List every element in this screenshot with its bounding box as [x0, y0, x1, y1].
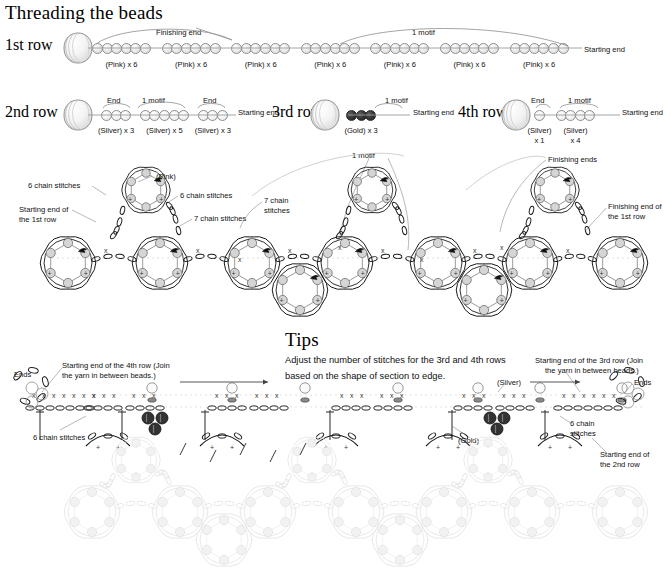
yarn-ball-icon-row1	[62, 32, 92, 64]
motif-bead	[87, 487, 96, 496]
motif-bead	[193, 497, 202, 506]
motif-flower: ++	[224, 237, 280, 290]
x-stitch-mark: x	[104, 247, 108, 254]
chain-stitch-run	[379, 501, 421, 510]
bead-silver	[120, 110, 131, 121]
motif-bead	[615, 278, 624, 287]
x-stitch-mark: x	[522, 392, 526, 399]
motif-bead	[598, 497, 607, 506]
plus-stitch-mark: +	[417, 270, 421, 277]
label-pink: (Pink)	[156, 172, 176, 182]
motif-bead	[439, 527, 448, 536]
motif-bead	[422, 497, 431, 506]
label-start-2nd-l1: Starting end of	[600, 450, 649, 460]
chain-stitch-run	[553, 254, 597, 263]
motif-bead	[81, 248, 90, 257]
motif-bead	[510, 517, 519, 526]
motif-flower	[196, 514, 252, 567]
motif-bead	[433, 238, 442, 247]
x-stitch-mark: x	[473, 247, 477, 254]
motif-bead	[132, 473, 140, 481]
motif-bead	[433, 278, 442, 287]
plus-stitch-mark: +	[546, 270, 550, 277]
partial-motif: ++	[314, 432, 358, 451]
motif-bead	[237, 545, 246, 554]
label-ends-right: Ends	[634, 378, 651, 388]
motif-flower	[240, 486, 296, 539]
motif-bead	[615, 238, 624, 247]
diagram-artwork: ++++++++++++++++++++++++xxxxxxxxxx xxxxx…	[0, 0, 671, 587]
motif-flower	[328, 486, 384, 539]
gold-bead-triad	[484, 412, 510, 435]
row2-bracket-end-right: End	[203, 96, 217, 106]
x-stitch-mark: x	[82, 392, 86, 399]
motif-bead	[263, 487, 272, 496]
motif-flower: ++	[348, 167, 397, 213]
motif-bead	[263, 527, 272, 536]
motif-bead	[497, 295, 506, 304]
motif-bead	[369, 497, 378, 506]
bead-group-caption: (Silver) x 3	[185, 126, 241, 136]
x-stitch-mark: x	[235, 392, 239, 399]
motif-bead	[158, 517, 167, 526]
plus-stitch-mark: +	[210, 444, 214, 451]
bead-pink	[558, 43, 569, 54]
plus-stitch-mark: +	[436, 444, 440, 451]
label-finishing-ends: Finishing ends	[548, 155, 597, 165]
plus-stitch-mark: +	[84, 270, 88, 277]
tips-title: Tips	[285, 329, 319, 351]
motif-bead	[413, 525, 422, 534]
x-stitch-mark: x	[380, 392, 384, 399]
label-starting-end-1st-row-l2: the 1st row	[19, 215, 56, 225]
plus-stitch-mark: +	[279, 297, 283, 304]
chain-stitch-run	[451, 473, 468, 489]
motif-flower: ++	[317, 237, 373, 290]
chain-stitch-run	[275, 473, 292, 489]
motif-bead	[551, 203, 559, 211]
plus-stitch-mark: +	[354, 196, 358, 203]
motif-bead	[340, 278, 349, 287]
motif-bead	[117, 447, 125, 455]
x-stitch-mark: x	[72, 392, 76, 399]
row4-bracket-end: End	[531, 96, 545, 106]
motif-bead	[479, 265, 488, 274]
motif-bead	[156, 194, 164, 202]
motif-bead	[457, 497, 466, 506]
motif-bead	[353, 194, 361, 202]
motif-bead	[173, 248, 182, 257]
motif-bead	[358, 248, 367, 257]
motif-bead	[368, 203, 376, 211]
motif-bead	[308, 439, 316, 447]
plus-stitch-mark: +	[139, 270, 143, 277]
motif-flower: ++	[272, 264, 328, 317]
motif-bead	[395, 515, 404, 524]
label-ends-left: Ends	[14, 370, 31, 380]
x-stitch-mark: x	[340, 392, 344, 399]
motif-bead	[353, 177, 361, 185]
motif-bead	[469, 447, 477, 455]
motif-bead	[246, 517, 255, 526]
motif-bead	[545, 497, 554, 506]
x-stitch-mark: x	[482, 392, 486, 399]
motif-bead	[565, 177, 573, 185]
row-label-1st: 1st row	[5, 36, 53, 54]
motif-bead	[358, 268, 367, 277]
chain-stitch-run	[183, 254, 228, 263]
motif-bead	[527, 487, 536, 496]
plus-stitch-mark: +	[344, 444, 348, 451]
motif-bead	[497, 275, 506, 284]
x-stitch-mark: x	[502, 392, 506, 399]
x-stitch-mark: x	[275, 392, 279, 399]
x-stitch-mark: x	[112, 392, 116, 399]
bead-group-caption: (Pink) x 6	[233, 60, 289, 70]
motif-flower: ++	[410, 237, 466, 290]
motif-bead	[295, 305, 304, 314]
x-stitch-mark: x	[572, 392, 576, 399]
x-stitch-mark: x	[472, 392, 476, 399]
motif-bead	[508, 248, 517, 257]
motif-bead	[615, 527, 624, 536]
motif-bead	[633, 248, 642, 257]
x-stitch-mark: x	[288, 247, 292, 254]
row2-bracket-motif: 1 motif	[142, 96, 165, 106]
chain-stitch-run	[391, 201, 407, 235]
